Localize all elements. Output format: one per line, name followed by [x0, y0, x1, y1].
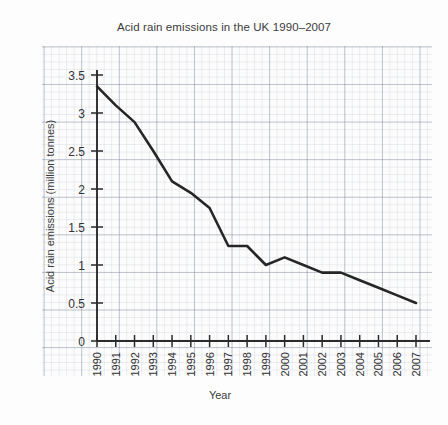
x-tick-label-2007: 2007	[410, 352, 422, 376]
x-tick-label-2004: 2004	[354, 352, 366, 376]
x-tick-label-2005: 2005	[372, 352, 384, 376]
x-tick-label-1991: 1991	[110, 352, 122, 376]
x-tick-label-1996: 1996	[204, 352, 216, 376]
x-tick-label-1997: 1997	[222, 352, 234, 376]
y-tick-label-1: 1	[78, 259, 85, 273]
x-tick-label-1995: 1995	[185, 352, 197, 376]
x-tick-label-2006: 2006	[391, 352, 403, 376]
x-tick-label-2003: 2003	[335, 352, 347, 376]
x-tick-label-1990: 1990	[91, 352, 103, 376]
chart-figure: Acid rain emissions in the UK 1990–2007 …	[0, 0, 448, 425]
y-tick-label-0: 0	[78, 335, 85, 349]
y-tick-label-3.5: 3.5	[68, 69, 85, 83]
y-tick-label-2.5: 2.5	[68, 145, 85, 159]
plot-area: 3.532.521.510.50 19901991199219931994199…	[0, 0, 448, 425]
y-tick-label-1.5: 1.5	[68, 221, 85, 235]
x-tick-label-2001: 2001	[297, 352, 309, 376]
y-tick-label-3: 3	[78, 107, 85, 121]
data-series-line	[97, 86, 416, 303]
y-tick-label-0.5: 0.5	[68, 297, 85, 311]
x-tick-label-1993: 1993	[147, 352, 159, 376]
y-tick-label-2: 2	[78, 183, 85, 197]
x-tick-label-1992: 1992	[129, 352, 141, 376]
x-tick-label-1999: 1999	[260, 352, 272, 376]
x-tick-label-2002: 2002	[316, 352, 328, 376]
x-tick-label-1998: 1998	[241, 352, 253, 376]
x-tick-label-2000: 2000	[279, 352, 291, 376]
x-tick-label-1994: 1994	[166, 352, 178, 376]
